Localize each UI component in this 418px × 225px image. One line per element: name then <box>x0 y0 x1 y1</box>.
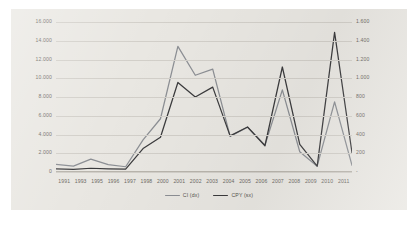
x-axis-tick: 2007 <box>270 176 286 187</box>
y-axis-left-tick: 8.000 <box>39 94 53 99</box>
y-axis-left-tick: 2.000 <box>39 151 53 156</box>
x-axis-tick: 1991 <box>56 176 72 187</box>
x-axis-tick: 2002 <box>188 176 204 187</box>
gridline <box>56 41 352 42</box>
y-axis-right-tick: 1.400 <box>356 38 370 43</box>
legend-swatch <box>165 195 180 197</box>
y-axis-left-tick: 0 <box>49 169 52 174</box>
y-axis-left-tick: 4.000 <box>39 132 53 137</box>
x-axis-tick: 2010 <box>319 176 335 187</box>
x-axis-tick: 2009 <box>303 176 319 187</box>
y-axis-right-tick: 1.000 <box>356 76 370 81</box>
legend-label: CI (dx) <box>183 193 200 198</box>
x-axis-tick: 2006 <box>253 176 269 187</box>
x-axis-tick: 1996 <box>105 176 121 187</box>
legend-item[interactable]: CPY (sx) <box>213 193 253 198</box>
gridline <box>56 153 352 154</box>
gridline <box>56 22 352 23</box>
y-axis-right-tick: - <box>356 169 358 174</box>
x-axis-tick: 1993 <box>72 176 88 187</box>
y-axis-right-tick: 400 <box>356 132 365 137</box>
gridline <box>56 116 352 117</box>
legend-swatch <box>213 195 228 197</box>
x-axis-tick: 2003 <box>204 176 220 187</box>
y-axis-left-tick: 12.000 <box>36 57 52 62</box>
x-axis-tick: 1998 <box>138 176 154 187</box>
gridline <box>56 135 352 136</box>
y-axis-left: 02.0004.0006.0008.00010.00012.00014.0001… <box>11 22 52 172</box>
x-axis-tick: 2000 <box>155 176 171 187</box>
x-axis-tick: 2005 <box>237 176 253 187</box>
y-axis-right: -2004006008001.0001.2001.4001.600 <box>356 22 404 172</box>
y-axis-left-tick: 10.000 <box>36 76 52 81</box>
y-axis-left-tick: 6.000 <box>39 113 53 118</box>
plot-area <box>56 22 352 172</box>
gridline <box>56 78 352 79</box>
series-line <box>56 46 352 166</box>
gridline <box>56 60 352 61</box>
series-line <box>56 32 352 169</box>
y-axis-right-tick: 1.600 <box>356 19 370 24</box>
x-axis-tick: 2001 <box>171 176 187 187</box>
y-axis-left-tick: 14.000 <box>36 38 52 43</box>
x-axis-tick: 2011 <box>335 176 351 187</box>
x-axis-tick: 2004 <box>220 176 236 187</box>
chart-legend: CI (dx)CPY (sx) <box>11 193 407 198</box>
y-axis-right-tick: 800 <box>356 94 365 99</box>
x-axis-baseline <box>56 171 352 172</box>
y-axis-right-tick: 1.200 <box>356 57 370 62</box>
gridline <box>56 172 352 173</box>
y-axis-left-tick: 16.000 <box>36 19 52 24</box>
y-axis-right-tick: 200 <box>356 151 365 156</box>
y-axis-right-tick: 600 <box>356 113 365 118</box>
gridline <box>56 97 352 98</box>
x-axis-tick: 1995 <box>89 176 105 187</box>
x-axis-tick: 2008 <box>286 176 302 187</box>
x-axis: 1991199319951996199719982000200120022003… <box>56 176 352 187</box>
x-axis-tick: 1997 <box>122 176 138 187</box>
chart-card: 02.0004.0006.0008.00010.00012.00014.0001… <box>11 9 407 210</box>
legend-item[interactable]: CI (dx) <box>165 193 200 198</box>
legend-label: CPY (sx) <box>231 193 253 198</box>
